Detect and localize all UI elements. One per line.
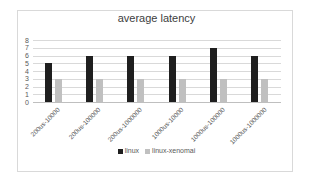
- y-tick-label: 6: [19, 52, 29, 59]
- bar-linux: [127, 56, 134, 103]
- gridline: [33, 63, 281, 64]
- bar-linux: [86, 56, 93, 103]
- bar-linux-xenomai: [261, 79, 268, 102]
- bar-linux: [251, 56, 258, 103]
- bar-linux-xenomai: [137, 79, 144, 102]
- bar-linux-xenomai: [220, 79, 227, 102]
- gridline: [33, 94, 281, 95]
- legend: linuxlinux-xenomai: [0, 147, 313, 154]
- bar-linux: [45, 63, 52, 102]
- legend-label: linux: [125, 147, 139, 154]
- gridline: [33, 56, 281, 57]
- bar-linux-xenomai: [96, 79, 103, 102]
- y-tick-label: 1: [19, 91, 29, 98]
- gridline: [33, 79, 281, 80]
- bar-linux: [210, 48, 217, 102]
- y-tick-label: 3: [19, 75, 29, 82]
- legend-label: linux-xenomai: [152, 147, 195, 154]
- x-axis-line: [33, 102, 281, 103]
- gridline: [33, 40, 281, 41]
- gridline: [33, 48, 281, 49]
- y-tick-label: 7: [19, 44, 29, 51]
- chart-title: average latency: [0, 12, 313, 24]
- y-tick-label: 4: [19, 68, 29, 75]
- legend-item: linux: [118, 147, 139, 154]
- legend-swatch: [118, 149, 123, 154]
- gridline: [33, 87, 281, 88]
- y-tick-label: 5: [19, 60, 29, 67]
- y-tick-label: 0: [19, 99, 29, 106]
- plot-area: [33, 40, 281, 102]
- legend-swatch: [145, 149, 150, 154]
- y-tick-label: 8: [19, 37, 29, 44]
- bar-linux: [169, 56, 176, 103]
- legend-item: linux-xenomai: [145, 147, 195, 154]
- gridline: [33, 71, 281, 72]
- bar-linux-xenomai: [55, 79, 62, 102]
- y-tick-label: 2: [19, 83, 29, 90]
- bar-linux-xenomai: [179, 79, 186, 102]
